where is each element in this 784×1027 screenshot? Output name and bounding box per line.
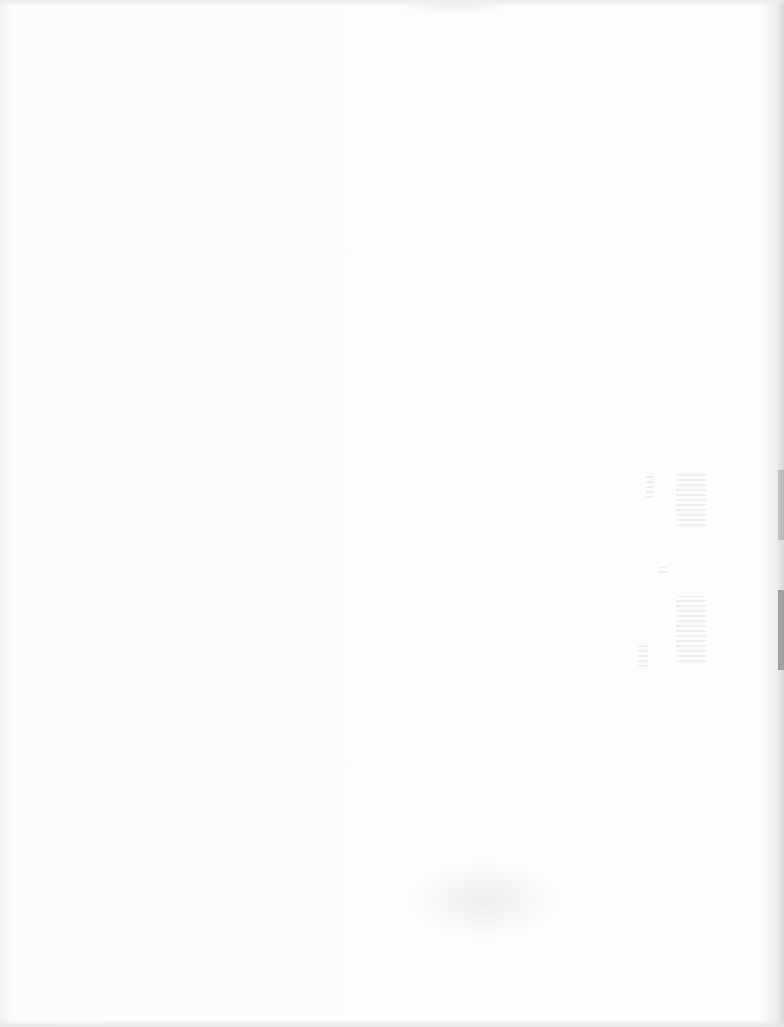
bleed-through-mark xyxy=(658,567,668,573)
page-bottom-edge xyxy=(0,1019,784,1027)
binding-shadow xyxy=(778,470,784,540)
bleed-through-mark xyxy=(676,474,706,526)
binding-shadow xyxy=(778,590,784,670)
bleed-through-mark xyxy=(646,474,654,498)
bleed-through-mark xyxy=(638,645,648,667)
scanned-page xyxy=(0,0,784,1027)
bleed-through-mark xyxy=(676,596,706,662)
faint-smudge xyxy=(410,860,560,940)
page-top-edge xyxy=(0,0,784,6)
faint-smudge xyxy=(400,0,510,14)
